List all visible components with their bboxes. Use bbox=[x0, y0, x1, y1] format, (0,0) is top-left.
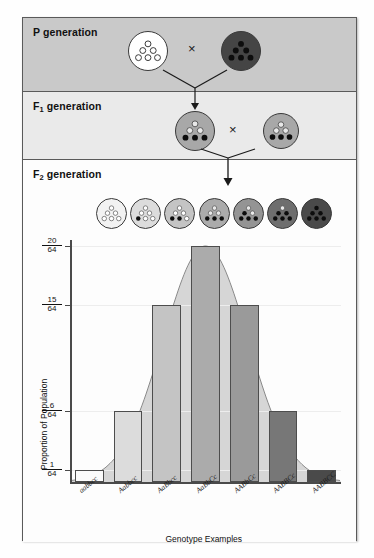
fraction-denominator: 64 bbox=[42, 470, 62, 478]
fraction-denominator: 64 bbox=[42, 246, 62, 254]
panel-f2-generation: F2 generation 16466415642064Proportion o… bbox=[23, 160, 356, 542]
bar-Aabbcc bbox=[114, 411, 143, 482]
y-axis-line bbox=[70, 240, 72, 482]
y-axis-title: Proportion of Population bbox=[39, 379, 49, 470]
distribution-chart: 16466415642064Proportion of Populationaa… bbox=[23, 160, 356, 542]
x-axis-title: Genotype Examples bbox=[166, 534, 243, 544]
y-tick-15 bbox=[65, 305, 70, 306]
panel-f1-generation: F1 generation × bbox=[23, 92, 356, 160]
f1-to-f2-connector bbox=[23, 92, 356, 160]
y-tick-20 bbox=[65, 246, 70, 247]
p-to-f1-connector bbox=[23, 18, 356, 92]
panel-p-generation: P generation × bbox=[23, 18, 356, 92]
y-tick-1 bbox=[65, 470, 70, 471]
y-tick-6 bbox=[65, 411, 70, 412]
figure-page: P generation × bbox=[0, 0, 374, 558]
bell-curve-overlay bbox=[23, 160, 356, 542]
fraction-denominator: 64 bbox=[42, 305, 62, 313]
figure-frame: P generation × bbox=[22, 17, 357, 541]
bar-AaBbCc bbox=[191, 246, 220, 482]
y-tick-label-15: 1564 bbox=[42, 296, 62, 313]
y-tick-label-20: 2064 bbox=[42, 237, 62, 254]
bar-AABbCc bbox=[230, 305, 259, 482]
bar-AaBbcc bbox=[152, 305, 181, 482]
